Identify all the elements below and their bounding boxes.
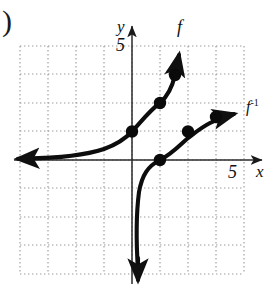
curve-f: [18, 55, 179, 159]
curve-label-f: f: [177, 18, 182, 36]
x-axis-tick-5: 5: [228, 163, 237, 181]
x-axis-label: x: [256, 163, 264, 180]
curve-label-f-inverse-exponent: -1: [250, 97, 258, 108]
point-finv-1-0: [154, 154, 166, 166]
point-finv-4-2: [210, 111, 222, 123]
coordinate-plane-svg: [0, 0, 279, 293]
point-f-2-4: [169, 69, 181, 81]
point-finv-2-1: [182, 125, 194, 137]
curve-f-inverse: [137, 114, 234, 280]
point-f-1-2: [154, 97, 166, 109]
y-axis-label: y: [117, 18, 125, 35]
graph-figure: ): [0, 0, 279, 293]
y-axis-tick-5: 5: [116, 36, 125, 54]
point-f-0-1: [126, 125, 138, 137]
curve-label-f-inverse: f-1: [246, 98, 259, 115]
